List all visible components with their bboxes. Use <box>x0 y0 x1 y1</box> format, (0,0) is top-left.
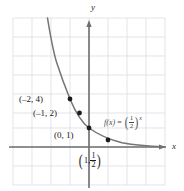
fraction-denominator: 2 <box>90 161 96 169</box>
point-label-0-1: (0, 1) <box>54 131 74 140</box>
base-fraction-one-half: 1 2 <box>129 115 135 131</box>
point-label-neg2-4: (–2, 4) <box>19 95 43 104</box>
paren-close: ) <box>97 152 101 169</box>
function-argument: (x) <box>106 119 115 127</box>
point-0-1 <box>87 126 92 131</box>
point-neg1-2 <box>77 111 82 116</box>
exponent: x <box>139 115 142 121</box>
fraction-numerator: 1 <box>90 152 96 160</box>
equals-sign: = <box>117 119 122 127</box>
function-equation-label: f(x) = ( 1 2 ) x <box>104 115 142 131</box>
base-denominator: 2 <box>129 123 135 130</box>
point-1-half <box>106 138 111 143</box>
y-axis-arrowhead <box>86 20 91 27</box>
point-label-1-half: ( 1, 1 2 ) <box>78 152 102 170</box>
base-numerator: 1 <box>129 115 135 122</box>
coord-first: 1, <box>84 156 91 165</box>
exponential-function-graph: y x (–2, 4) (–1, 2) (0, 1) ( 1, 1 2 ) f(… <box>0 0 184 191</box>
point-label-neg1-2: (–1, 2) <box>33 109 57 118</box>
point-neg2-4 <box>68 97 73 102</box>
y-axis-label: y <box>91 3 95 12</box>
base-paren-close: ) <box>135 115 139 130</box>
x-axis-label: x <box>172 142 176 151</box>
fraction-one-half: 1 2 <box>90 152 96 170</box>
paren-open: ( <box>79 152 83 169</box>
base-paren-open: ( <box>124 115 128 130</box>
